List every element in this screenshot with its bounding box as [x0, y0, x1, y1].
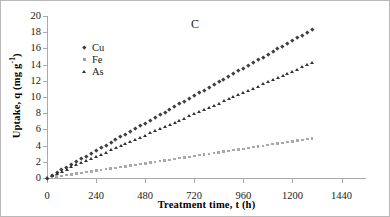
legend-item-cu[interactable]: Cu	[80, 42, 104, 53]
plot-area	[47, 16, 366, 178]
data-point-as	[182, 117, 186, 120]
data-point-as	[114, 146, 118, 149]
data-point-as	[256, 85, 260, 88]
data-point-as	[310, 61, 314, 64]
data-point-as	[276, 76, 280, 79]
data-point-as	[266, 80, 270, 83]
data-point-as	[231, 95, 235, 98]
square-glyph	[83, 58, 86, 61]
y-tick-label-wrap: 12	[1, 76, 41, 86]
y-tick-label: 20	[15, 11, 41, 21]
y-tick-label-wrap: 16	[1, 43, 41, 53]
y-tick-label-wrap: 8	[1, 108, 41, 118]
data-point-as	[271, 78, 275, 81]
data-point-as	[212, 104, 216, 107]
diamond-glyph	[83, 46, 87, 50]
y-tick-label: 8	[15, 108, 41, 118]
chart-legend: CuFeAs	[80, 42, 104, 78]
y-tick-label: 10	[15, 92, 41, 102]
legend-item-as[interactable]: As	[80, 66, 104, 77]
legend-label: Cu	[92, 43, 104, 53]
data-point-as	[104, 151, 108, 154]
data-point-as	[261, 82, 265, 85]
data-point-as	[69, 165, 73, 168]
data-point-as	[290, 70, 294, 73]
data-point-as	[305, 63, 309, 66]
y-tick-label: 0	[15, 173, 41, 183]
y-tick-label-wrap: 0	[1, 173, 41, 183]
x-axis-line	[47, 178, 366, 179]
data-point-as	[168, 123, 172, 126]
data-point-as	[227, 97, 231, 100]
data-point-as	[50, 174, 54, 177]
data-point-as	[222, 99, 226, 102]
data-point-as	[177, 119, 181, 122]
x-tick-mark	[243, 179, 244, 183]
y-axis-title-tail: )	[11, 53, 22, 57]
legend-item-fe[interactable]: Fe	[80, 54, 104, 65]
y-tick-label-wrap: 4	[1, 141, 41, 151]
data-point-as	[148, 131, 152, 134]
y-tick-label-wrap: 2	[1, 157, 41, 167]
y-tick-label-wrap: 18	[1, 27, 41, 37]
x-tick-mark	[292, 179, 293, 183]
legend-label: As	[92, 67, 104, 77]
square-marker-icon	[80, 55, 89, 64]
data-point-as	[217, 102, 221, 105]
legend-label: Fe	[92, 55, 103, 65]
data-point-as	[158, 127, 162, 130]
data-point-as	[236, 93, 240, 96]
data-point-as	[99, 153, 103, 156]
x-tick-mark	[96, 179, 97, 183]
data-point-as	[74, 163, 78, 166]
data-point-as	[133, 138, 137, 141]
data-point-as	[163, 125, 167, 128]
x-tick-mark	[145, 179, 146, 183]
y-tick-label-wrap: 6	[1, 124, 41, 134]
triangle-glyph	[82, 70, 86, 73]
y-tick-label: 6	[15, 124, 41, 134]
diamond-marker-icon	[80, 43, 89, 52]
data-point-as	[79, 161, 83, 164]
data-point-as	[60, 170, 64, 173]
data-point-as	[65, 168, 69, 171]
data-point-as	[89, 157, 93, 160]
data-point-as	[295, 68, 299, 71]
data-point-as	[55, 172, 59, 175]
y-tick-label-wrap: 10	[1, 92, 41, 102]
data-point-as	[187, 114, 191, 117]
data-point-as	[45, 176, 49, 179]
x-tick-mark	[194, 179, 195, 183]
y-tick-label: 12	[15, 76, 41, 86]
chart-figure: Uptake, q (mg g-1) 02468101214161820 024…	[0, 0, 390, 217]
data-point-as	[109, 148, 113, 151]
data-point-as	[241, 91, 245, 94]
y-tick-label: 4	[15, 141, 41, 151]
data-point-as	[128, 140, 132, 143]
data-point-as	[153, 129, 157, 132]
data-point-as	[138, 136, 142, 139]
y-tick-label-wrap: 20	[1, 11, 41, 21]
data-point-as	[246, 89, 250, 92]
data-point-as	[143, 134, 147, 137]
panel-label: C	[191, 18, 199, 30]
triangle-marker-icon	[80, 67, 89, 76]
data-point-as	[281, 74, 285, 77]
y-tick-label: 18	[15, 27, 41, 37]
data-point-as	[197, 110, 201, 113]
data-point-as	[119, 144, 123, 147]
data-point-as	[207, 106, 211, 109]
data-point-as	[173, 121, 177, 124]
y-tick-label: 16	[15, 43, 41, 53]
y-tick-label: 2	[15, 157, 41, 167]
data-point-as	[202, 108, 206, 111]
data-point-as	[285, 72, 289, 75]
series-as	[47, 16, 366, 178]
y-tick-label-wrap: 14	[1, 60, 41, 70]
data-point-as	[94, 155, 98, 158]
data-point-as	[251, 87, 255, 90]
data-point-as	[300, 65, 304, 68]
data-point-as	[84, 159, 88, 162]
data-point-as	[123, 142, 127, 145]
y-tick-label: 14	[15, 60, 41, 70]
